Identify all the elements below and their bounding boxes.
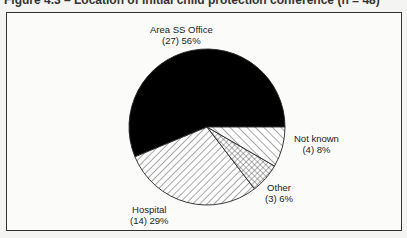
label-area-ss-office: Area SS Office (27) 56% [150,24,213,46]
label-name: Other [265,182,293,193]
label-hospital: Hospital (14) 29% [130,204,169,226]
label-not-known: Not known (4) 8% [294,133,339,155]
label-value: (14) 29% [130,215,169,226]
label-value: (27) 56% [150,35,213,46]
label-value: (3) 6% [265,193,293,204]
label-value: (4) 8% [294,144,339,155]
label-name: Not known [294,133,339,144]
label-name: Area SS Office [150,24,213,35]
label-name: Hospital [130,204,169,215]
label-other: Other (3) 6% [265,182,293,204]
